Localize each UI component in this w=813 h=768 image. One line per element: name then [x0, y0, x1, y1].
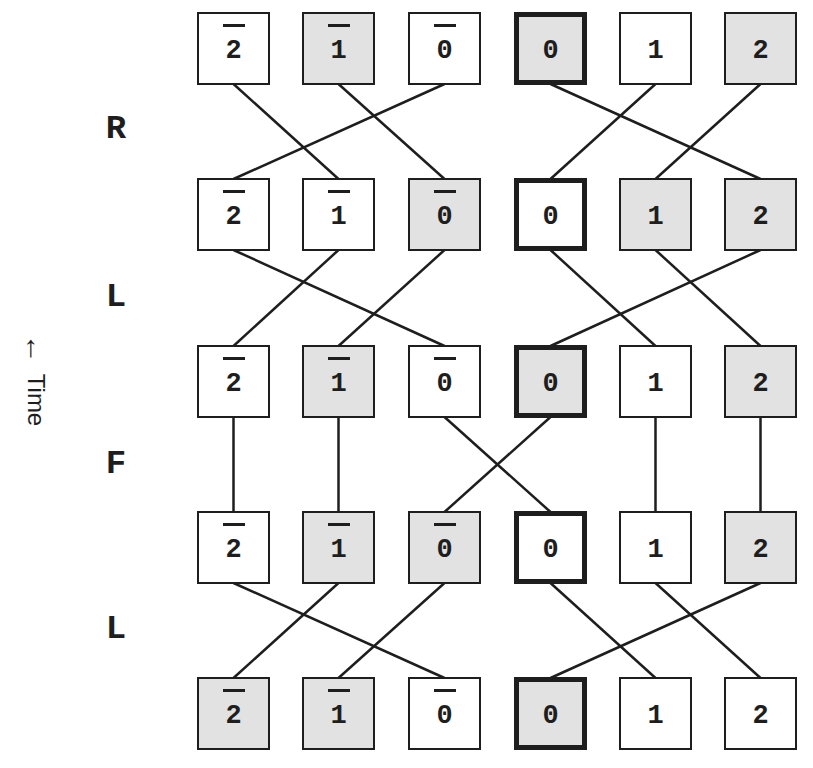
connection-line [551, 84, 761, 179]
node-row0-col2: 0 [408, 12, 481, 85]
node-value: 0 [542, 371, 558, 398]
overbar-icon [434, 523, 456, 526]
connection-line [656, 250, 761, 346]
node-row0-col5: 2 [724, 12, 797, 85]
connection-line [234, 583, 445, 678]
node-row4-col2: 0 [408, 677, 481, 750]
node-value: 1 [647, 703, 663, 730]
node-value: 2 [225, 38, 241, 65]
node-value: 1 [330, 371, 346, 398]
node-value: 2 [752, 38, 768, 65]
connection-line [656, 84, 761, 179]
node-value: 1 [647, 371, 663, 398]
node-row1-col4: 1 [619, 178, 692, 251]
overbar-icon [328, 24, 350, 27]
node-row0-col3: 0 [514, 12, 587, 85]
connection-line [234, 250, 445, 346]
node-value: 2 [752, 204, 768, 231]
node-value: 1 [330, 38, 346, 65]
connection-line [339, 250, 445, 346]
operation-label-1: R [96, 112, 136, 146]
node-value: 1 [330, 703, 346, 730]
node-value: 2 [752, 703, 768, 730]
node-value: 2 [225, 703, 241, 730]
overbar-icon [434, 190, 456, 193]
node-row2-col4: 1 [619, 345, 692, 418]
node-row3-col3: 0 [514, 511, 587, 584]
node-value: 2 [225, 537, 241, 564]
node-value: 0 [436, 38, 452, 65]
node-row4-col3: 0 [514, 677, 587, 750]
connection-line [551, 250, 656, 346]
time-axis-label: ← Time [21, 334, 51, 426]
overbar-icon [223, 190, 245, 193]
connection-line [234, 250, 339, 346]
node-value: 2 [752, 371, 768, 398]
node-row2-col1: 1 [302, 345, 375, 418]
node-value: 0 [436, 204, 452, 231]
connection-line [234, 84, 445, 179]
node-value: 1 [647, 38, 663, 65]
node-value: 2 [225, 371, 241, 398]
node-row3-col0: 2 [197, 511, 270, 584]
operation-label-4: L [96, 612, 136, 646]
node-row3-col2: 0 [408, 511, 481, 584]
overbar-icon [328, 190, 350, 193]
node-row3-col4: 1 [619, 511, 692, 584]
overbar-icon [223, 24, 245, 27]
node-row2-col5: 2 [724, 345, 797, 418]
node-row4-col4: 1 [619, 677, 692, 750]
connection-line [234, 84, 339, 179]
node-row4-col1: 1 [302, 677, 375, 750]
permutation-diagram: ← Time R L F L 2100122100122100122100122… [0, 0, 813, 768]
connection-line [551, 583, 761, 678]
node-value: 2 [225, 204, 241, 231]
node-value: 0 [542, 703, 558, 730]
node-row1-col2: 0 [408, 178, 481, 251]
overbar-icon [223, 689, 245, 692]
node-value: 0 [542, 38, 558, 65]
time-axis-text: Time [22, 374, 50, 426]
node-row4-col5: 2 [724, 677, 797, 750]
node-row0-col1: 1 [302, 12, 375, 85]
connection-line [656, 583, 761, 678]
overbar-icon [223, 357, 245, 360]
node-row4-col0: 2 [197, 677, 270, 750]
connection-line [234, 583, 339, 678]
node-row0-col4: 1 [619, 12, 692, 85]
connection-line [339, 84, 445, 179]
node-value: 2 [752, 537, 768, 564]
node-value: 1 [647, 537, 663, 564]
overbar-icon [223, 523, 245, 526]
overbar-icon [434, 357, 456, 360]
node-value: 0 [436, 703, 452, 730]
operation-label-3: F [96, 447, 136, 481]
operation-label-2: L [96, 280, 136, 314]
node-row1-col5: 2 [724, 178, 797, 251]
node-value: 0 [436, 371, 452, 398]
overbar-icon [328, 523, 350, 526]
node-row2-col2: 0 [408, 345, 481, 418]
node-value: 0 [436, 537, 452, 564]
overbar-icon [328, 357, 350, 360]
node-value: 1 [647, 204, 663, 231]
node-row3-col1: 1 [302, 511, 375, 584]
node-row1-col3: 0 [514, 178, 587, 251]
node-value: 1 [330, 537, 346, 564]
connection-line [339, 583, 445, 678]
node-value: 0 [542, 204, 558, 231]
node-row0-col0: 2 [197, 12, 270, 85]
overbar-icon [434, 24, 456, 27]
node-value: 0 [542, 537, 558, 564]
node-row2-col3: 0 [514, 345, 587, 418]
node-row3-col5: 2 [724, 511, 797, 584]
node-value: 1 [330, 204, 346, 231]
connection-line [551, 583, 656, 678]
node-row1-col1: 1 [302, 178, 375, 251]
connection-line [551, 250, 761, 346]
connection-line [551, 84, 656, 179]
arrow-left-icon: ← [21, 334, 51, 364]
node-row2-col0: 2 [197, 345, 270, 418]
node-row1-col0: 2 [197, 178, 270, 251]
overbar-icon [434, 689, 456, 692]
